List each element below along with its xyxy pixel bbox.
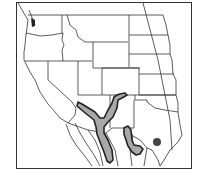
- range-map: [0, 0, 200, 189]
- central-texas-point-marker: [153, 138, 161, 146]
